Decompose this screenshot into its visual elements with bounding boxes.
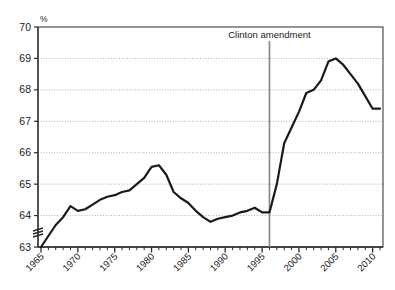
- y-tick-label-64: 64: [19, 209, 31, 221]
- y-tick-label-70: 70: [19, 21, 31, 33]
- annotation-label: Clinton amendment: [228, 29, 311, 40]
- y-tick-label-68: 68: [19, 83, 31, 95]
- line-chart: 6364656667686970 % 196519701975198019851…: [0, 0, 395, 290]
- chart-container: 6364656667686970 % 196519701975198019851…: [0, 0, 395, 290]
- y-tick-label-65: 65: [19, 178, 31, 190]
- y-axis-unit-label: %: [40, 14, 48, 24]
- y-tick-label-63: 63: [19, 241, 31, 253]
- y-tick-label-67: 67: [19, 115, 31, 127]
- y-tick-label-66: 66: [19, 146, 31, 158]
- y-tick-label-69: 69: [19, 52, 31, 64]
